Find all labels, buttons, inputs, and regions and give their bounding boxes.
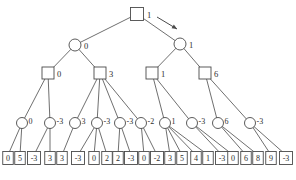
node-value-label: 6 bbox=[225, 117, 229, 126]
min-node-circle bbox=[17, 118, 28, 129]
node-value-label: 3 bbox=[60, 154, 64, 163]
minimax-tree-diagram: 10103160-33-3-3-21-36-305-333-3022-30-23… bbox=[0, 0, 296, 180]
min-node-circle bbox=[213, 118, 224, 129]
min-node-circle bbox=[136, 118, 147, 129]
min-node-circle bbox=[160, 118, 171, 129]
tree-edge bbox=[97, 73, 100, 123]
node-value-label: -2 bbox=[154, 154, 161, 163]
min-node-circle bbox=[92, 118, 103, 129]
node-value-label: 5 bbox=[180, 154, 184, 163]
tree-edge bbox=[165, 123, 208, 155]
tree-edge bbox=[218, 123, 246, 155]
node-value-label: 3 bbox=[168, 154, 172, 163]
tree-edge bbox=[192, 123, 233, 155]
node-value-label: 6 bbox=[214, 69, 218, 79]
node-value-label: -3 bbox=[257, 117, 264, 126]
node-value-label: 0 bbox=[142, 154, 146, 163]
node-value-label: 1 bbox=[172, 117, 176, 126]
node-value-label: 5 bbox=[18, 154, 22, 163]
tree-edge bbox=[75, 73, 100, 123]
node-value-label: 1 bbox=[189, 40, 193, 50]
node-value-label: 0 bbox=[84, 41, 88, 51]
node-value-label: -2 bbox=[148, 117, 155, 126]
node-value-label: 0 bbox=[231, 154, 235, 163]
min-node-circle bbox=[69, 39, 81, 51]
max-node-square bbox=[146, 67, 158, 79]
node-value-label: 3 bbox=[109, 69, 113, 79]
tree-edge bbox=[100, 73, 141, 123]
min-node-circle bbox=[174, 38, 186, 50]
node-value-label: 9 bbox=[269, 154, 273, 163]
node-value-label: 0 bbox=[57, 69, 61, 79]
tree-edge bbox=[48, 73, 50, 123]
node-value-label: -3 bbox=[127, 117, 134, 126]
node-value-label: 1 bbox=[206, 154, 210, 163]
node-value-label: 0 bbox=[6, 154, 10, 163]
max-node-square bbox=[131, 8, 144, 21]
max-node-square bbox=[94, 67, 106, 79]
game-tree-svg: 10103160-33-3-3-21-36-305-333-3022-30-23… bbox=[0, 0, 296, 180]
node-value-label: 2 bbox=[116, 154, 120, 163]
min-node-circle bbox=[187, 118, 198, 129]
node-value-label: -3 bbox=[128, 154, 135, 163]
node-value-label: -3 bbox=[199, 117, 206, 126]
min-node-circle bbox=[45, 118, 56, 129]
min-node-circle bbox=[70, 118, 81, 129]
node-value-label: 3 bbox=[48, 154, 52, 163]
node-value-label: -3 bbox=[31, 154, 38, 163]
node-value-label: 4 bbox=[194, 154, 198, 163]
node-value-label: -3 bbox=[283, 154, 290, 163]
max-node-square bbox=[199, 67, 211, 79]
node-value-label: 0 bbox=[29, 117, 33, 126]
node-value-label: 8 bbox=[256, 154, 260, 163]
node-value-label: 1 bbox=[147, 10, 151, 20]
min-node-circle bbox=[245, 118, 256, 129]
tree-edge bbox=[100, 73, 120, 123]
node-value-label: 2 bbox=[105, 154, 109, 163]
min-node-circle bbox=[115, 118, 126, 129]
node-value-label: -3 bbox=[219, 154, 226, 163]
node-value-label: 6 bbox=[244, 154, 248, 163]
node-value-label: 1 bbox=[161, 69, 165, 79]
node-value-label: -3 bbox=[104, 117, 111, 126]
node-value-label: 0 bbox=[92, 154, 96, 163]
tree-edge bbox=[22, 73, 48, 123]
tree-edge bbox=[152, 73, 192, 123]
node-value-label: -3 bbox=[57, 117, 64, 126]
node-value-label: -3 bbox=[75, 154, 82, 163]
max-node-square bbox=[42, 67, 54, 79]
node-value-label: 3 bbox=[82, 117, 86, 126]
